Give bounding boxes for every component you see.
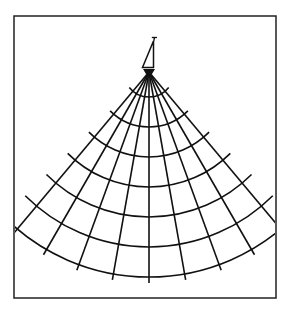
radial-line — [77, 72, 149, 270]
polar-grid — [4, 72, 291, 283]
bearing-radials — [13, 72, 284, 283]
radial-line — [13, 72, 149, 234]
radial-line — [149, 72, 221, 270]
radial-line — [149, 72, 285, 234]
marker-flag-triangle — [143, 41, 154, 68]
fan-grid-diagram — [0, 0, 291, 316]
transducer-marker-icon — [143, 37, 158, 74]
marker-base-blob — [143, 69, 155, 74]
